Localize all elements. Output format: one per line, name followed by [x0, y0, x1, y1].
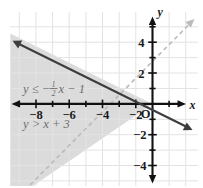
inequality-1-denominator: 2	[52, 89, 56, 98]
origin-label: O	[141, 107, 151, 121]
y-tick-label-minus4: −4	[133, 159, 147, 173]
inequality-1-rhs: x − 1	[58, 82, 85, 96]
y-axis-label: y	[156, 5, 164, 19]
y-tick-label-minus2: −2	[133, 128, 146, 142]
x-axis-label: x	[189, 98, 196, 112]
inequality-1-numerator: 1	[52, 80, 56, 89]
y-tick-label-4: 4	[138, 36, 145, 50]
inequality-graph-svg: −8 −6 −4 −2 4 2 −2 −4 O x y y ≤ − 1 2 x …	[0, 0, 203, 188]
y-tick-label-2: 2	[138, 67, 144, 81]
inequality-label-1: y ≤ − 1 2 x − 1	[21, 80, 85, 98]
inequality-label-2: y > x + 3	[21, 117, 70, 131]
inequality-1-lhs: y ≤ −	[21, 82, 50, 96]
x-tick-label-minus4: −4	[96, 108, 110, 122]
coordinate-graph: −8 −6 −4 −2 4 2 −2 −4 O x y y ≤ − 1 2 x …	[0, 0, 203, 188]
